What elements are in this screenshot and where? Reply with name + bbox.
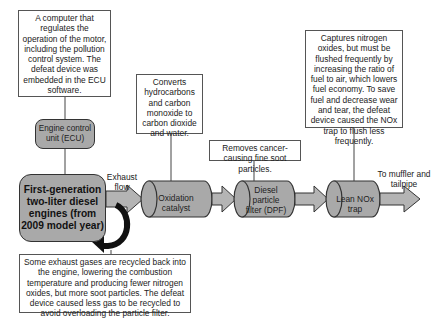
egr-description-note: Some exhaust gases are recycled back int… xyxy=(19,254,191,313)
outlet-label: To muffler and tailpipe xyxy=(376,169,432,189)
oxidation-description-note: Converts hydrocarbons and carbon monoxid… xyxy=(136,74,203,134)
diesel-engine-block: First-generation two-liter diesel engine… xyxy=(19,174,106,242)
ecu-description-note: A computer that regulates the operation … xyxy=(18,10,111,97)
oxidation-catalyst-label: Oxidation catalyst xyxy=(148,193,204,213)
right-arrow-icon xyxy=(295,186,328,212)
ecu-label: Engine control unit (ECU) xyxy=(36,124,94,144)
engine-control-unit: Engine control unit (ECU) xyxy=(35,119,95,149)
dpf-description-note: Removes cancer-causing fine soot particl… xyxy=(209,140,301,161)
right-arrow-icon xyxy=(380,186,420,212)
right-arrow-icon xyxy=(212,186,236,212)
nox-trap-description-note: Captures nitrogen oxides, but must be fl… xyxy=(305,30,403,128)
nox-trap-label: Lean NOx trap xyxy=(336,194,374,214)
dpf-label: Diesel particle filter (DPF) xyxy=(244,185,288,215)
engine-label: First-generation two-liter diesel engine… xyxy=(20,184,105,232)
exhaust-flow-label: Exhaust flow xyxy=(102,172,142,192)
